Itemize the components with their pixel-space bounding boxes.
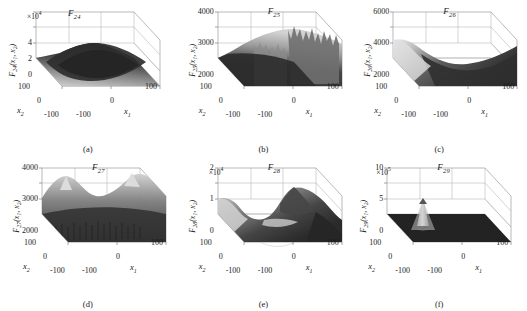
panel-e-ytick-max: 100 [200, 238, 212, 247]
panel-f-caption: (f) [351, 299, 527, 309]
panel-a-ytick-max: 100 [18, 82, 30, 91]
panel-c-ztick-0: 2000 [359, 70, 389, 79]
panel-a-exponent: ×104 [27, 10, 41, 21]
panel-f-ztick-0: 0 [363, 226, 383, 235]
panel-d-ztick-0: 2000 [8, 226, 38, 235]
panel-e-caption: (e) [176, 299, 352, 309]
panel-e-ztick-0: 0 [196, 226, 214, 235]
panel-c: F26 F26(x₁, x₂) 6000 4000 2000 100 0 -10… [351, 0, 527, 156]
panel-a-ztick-1: 2 [14, 54, 32, 63]
panel-c-title: F26 [443, 6, 456, 18]
panel-c-yaxis-name: x2 [374, 105, 381, 117]
panel-a-ytick-mid: 0 [37, 96, 41, 105]
panel-e-xtick-min: -100 [258, 266, 273, 275]
panel-b-ztick-2: 4000 [184, 7, 214, 16]
panel-d: F27 F27(x₁, x₂) 4000 3000 2000 100 0 -10… [0, 156, 176, 311]
panel-a-ztick-2: 4 [14, 38, 32, 47]
panel-c-xtick-mid: 0 [467, 96, 471, 105]
panel-d-ztick-1: 3000 [8, 194, 38, 203]
panel-c-caption: (c) [351, 144, 527, 154]
panel-b-ztick-0: 2000 [184, 70, 214, 79]
panel-b-ztick-1: 3000 [184, 38, 214, 47]
panel-e-xtick-mid: 0 [292, 252, 296, 261]
panel-c-xaxis-name: x1 [481, 106, 488, 118]
panel-b-caption: (b) [176, 144, 352, 154]
panel-b-yaxis-name: x2 [199, 105, 206, 117]
panel-c-plot: F26 F26(x₁, x₂) 6000 4000 2000 100 0 -10… [351, 0, 527, 156]
panel-b-xtick-min: -100 [258, 110, 273, 119]
panel-a-caption: (a) [0, 144, 176, 154]
panel-b-xtick-max: 100 [327, 82, 339, 91]
panel-f-ytick-mid: 0 [388, 252, 392, 261]
panel-e-plot: ×104 F28 F28(x₁, x₂) 2 1 0 100 0 -100 -1… [176, 156, 352, 311]
panel-a-xtick-min: -100 [76, 110, 91, 119]
panel-e-title: F28 [268, 162, 281, 174]
panel-a-xtick-max: 100 [145, 82, 157, 91]
panel-f-plot: ×105 F29 F29(x₁, x₂) 10 5 0 100 0 -100 -… [351, 156, 527, 311]
panel-c-ytick-mid: 0 [394, 96, 398, 105]
panel-c-ztick-1: 4000 [359, 38, 389, 47]
panel-f-ztick-2: 10 [363, 163, 383, 172]
panel-f-yaxis-name: x2 [368, 261, 375, 273]
panel-b-xtick-mid: 0 [292, 96, 296, 105]
panel-f-ztick-1: 5 [363, 194, 383, 203]
panel-f-title: F29 [437, 162, 450, 174]
panel-f-xtick-max: 100 [496, 238, 508, 247]
panel-e-ztick-2: 2 [196, 163, 214, 172]
panel-b-plot: F25 F25(x₁, x₂) 4000 3000 2000 100 0 -10… [176, 0, 352, 156]
panel-a-ztick-0: 0 [14, 70, 32, 79]
panel-e-xaxis-name: x1 [306, 262, 313, 274]
panel-c-ytick-max: 100 [375, 82, 387, 91]
panel-a-xtick-mid: 0 [110, 96, 114, 105]
panel-f: ×105 F29 F29(x₁, x₂) 10 5 0 100 0 -100 -… [351, 156, 527, 311]
panel-d-ztick-2: 4000 [8, 163, 38, 172]
panel-b-ytick-min: -100 [226, 110, 241, 119]
panel-b: F25 F25(x₁, x₂) 4000 3000 2000 100 0 -10… [176, 0, 352, 156]
panel-c-xtick-min: -100 [433, 110, 448, 119]
panel-d-ytick-max: 100 [24, 238, 36, 247]
panel-b-ytick-mid: 0 [219, 96, 223, 105]
panel-d-xtick-mid: 0 [116, 252, 120, 261]
panel-a: ×104 F24 F24(x₁, x₂) 4 2 0 100 0 -100 -1… [0, 0, 176, 156]
panel-e-ytick-min: -100 [226, 266, 241, 275]
panel-f-ytick-min: -100 [395, 266, 410, 275]
panel-e-ytick-mid: 0 [219, 252, 223, 261]
panel-d-xtick-min: -100 [82, 266, 97, 275]
panel-d-ytick-mid: 0 [43, 252, 47, 261]
panel-c-xtick-max: 100 [502, 82, 514, 91]
panel-c-ztick-2: 6000 [359, 7, 389, 16]
panel-d-yaxis-name: x2 [23, 261, 30, 273]
panel-c-ytick-min: -100 [401, 110, 416, 119]
panel-a-title: F24 [68, 8, 81, 20]
panel-d-ytick-min: -100 [50, 266, 65, 275]
panel-f-xaxis-name: x1 [475, 262, 482, 274]
panel-a-ytick-min: -100 [44, 110, 59, 119]
surface-plot-figure: ×104 F24 F24(x₁, x₂) 4 2 0 100 0 -100 -1… [0, 0, 527, 311]
panel-d-caption: (d) [0, 299, 176, 309]
panel-d-plot: F27 F27(x₁, x₂) 4000 3000 2000 100 0 -10… [0, 156, 176, 311]
panel-b-xaxis-name: x1 [306, 106, 313, 118]
panel-b-ytick-max: 100 [200, 82, 212, 91]
panel-a-xaxis-name: x1 [124, 106, 131, 118]
panel-d-xaxis-name: x1 [130, 262, 137, 274]
panel-a-plot: ×104 F24 F24(x₁, x₂) 4 2 0 100 0 -100 -1… [0, 0, 176, 156]
panel-e: ×104 F28 F28(x₁, x₂) 2 1 0 100 0 -100 -1… [176, 156, 352, 311]
panel-f-xtick-mid: 0 [461, 252, 465, 261]
panel-b-title: F25 [268, 6, 281, 18]
panel-f-ytick-max: 100 [369, 238, 381, 247]
panel-e-xtick-max: 100 [327, 238, 339, 247]
panel-a-yaxis-name: x2 [17, 105, 24, 117]
panel-f-xtick-min: -100 [427, 266, 442, 275]
panel-e-ztick-1: 1 [196, 194, 214, 203]
panel-d-xtick-max: 100 [151, 238, 163, 247]
panel-d-title: F27 [92, 162, 105, 174]
panel-e-yaxis-name: x2 [199, 261, 206, 273]
